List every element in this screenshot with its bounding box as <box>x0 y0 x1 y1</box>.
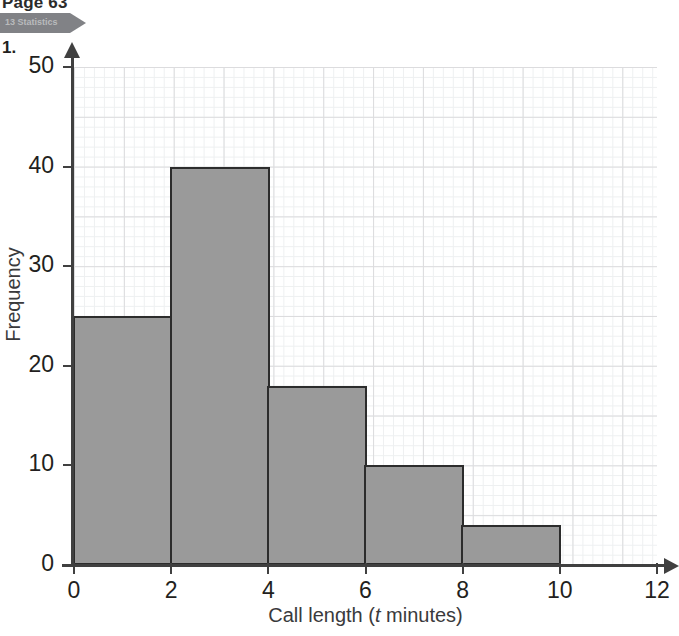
x-tick-6 <box>365 563 367 574</box>
y-tick-10 <box>63 464 72 466</box>
x-tick-label-6: 6 <box>346 577 386 604</box>
x-tick-4 <box>267 563 269 574</box>
y-axis-title: Frequency <box>2 225 25 365</box>
x-tick-label-0: 0 <box>54 577 94 604</box>
x-tick-label-10: 10 <box>540 577 580 604</box>
y-tick-40 <box>63 166 72 168</box>
y-tick-label-50: 50 <box>8 52 54 79</box>
y-tick-label-0: 0 <box>8 550 54 577</box>
y-tick-20 <box>63 365 72 367</box>
x-axis-arrow-icon <box>664 558 679 574</box>
x-tick-label-12: 12 <box>637 577 677 604</box>
y-axis-arrow-icon <box>64 42 80 58</box>
bar-1 <box>170 167 270 565</box>
x-axis-title-units: minutes) <box>381 604 463 626</box>
y-tick-label-40: 40 <box>8 152 54 179</box>
bar-4 <box>461 525 561 565</box>
x-tick-0 <box>73 563 75 574</box>
y-tick-label-10: 10 <box>8 450 54 477</box>
bar-3 <box>364 465 464 565</box>
y-axis-line <box>71 55 74 567</box>
y-tick-50 <box>63 66 72 68</box>
y-tick-30 <box>63 265 72 267</box>
x-tick-8 <box>462 563 464 574</box>
x-tick-label-2: 2 <box>151 577 191 604</box>
x-axis-title: Call length (t minutes) <box>74 604 657 627</box>
y-tick-0 <box>63 564 72 566</box>
x-tick-10 <box>559 563 561 574</box>
x-tick-2 <box>170 563 172 574</box>
x-axis-title-text: Call length ( <box>268 604 375 626</box>
x-tick-label-4: 4 <box>248 577 288 604</box>
x-tick-12 <box>656 563 658 574</box>
bar-0 <box>73 316 173 565</box>
histogram-chart: 01020304050 024681012 Frequency Call len… <box>0 0 679 636</box>
x-tick-label-8: 8 <box>443 577 483 604</box>
bar-2 <box>267 386 367 565</box>
